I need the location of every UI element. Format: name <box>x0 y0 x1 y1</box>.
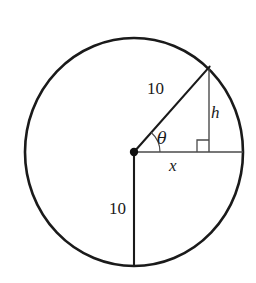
radius-line-diagonal <box>134 67 210 152</box>
label-radius-vertical: 10 <box>109 200 126 217</box>
right-angle-icon <box>197 140 209 152</box>
label-angle-theta: θ <box>157 131 167 147</box>
geometry-figure: 10 h x 10 θ <box>0 0 256 283</box>
label-radius-diagonal: 10 <box>147 80 164 97</box>
label-base-x: x <box>169 157 177 174</box>
center-point-dot <box>130 148 138 156</box>
geometry-canvas <box>0 0 256 283</box>
label-height-h: h <box>211 104 220 121</box>
